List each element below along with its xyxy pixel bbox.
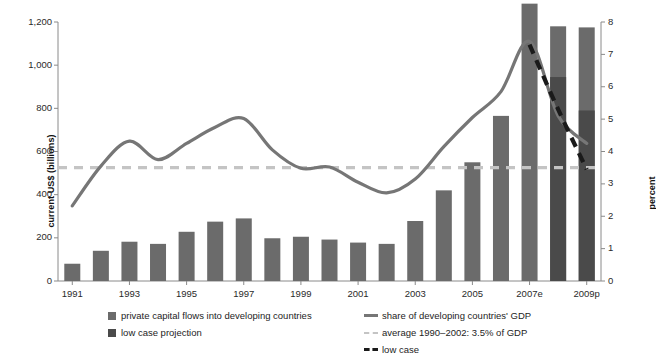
x-axis-tick-label: 1999 [279,288,323,299]
legend-item-low-case: low case [364,342,531,357]
legend-column-right: share of developing countries' GDP avera… [364,308,531,359]
y-axis-right-tick-label: 6 [608,80,613,91]
legend-label-average-gdp: average 1990–2002: 3.5% of GDP [382,327,527,338]
bar-total [264,238,280,281]
bar-total [179,232,195,281]
legend-swatch-private-capital-flows [108,312,116,320]
bar-total [236,218,252,281]
legend-label-gdp-share: share of developing countries' GDP [382,310,531,321]
legend-item-gdp-share: share of developing countries' GDP [364,308,531,323]
legend-swatch-low-case-projection [108,329,116,337]
bar-total [407,221,423,281]
bar-total [321,240,337,281]
y-axis-left-tick-label: 400 [6,188,52,199]
bar-low-case-projection [579,110,595,281]
legend-label-low-case-projection: low case projection [121,327,202,338]
x-axis-tick-label: 1993 [107,288,151,299]
y-axis-left-tick-label: 1,000 [6,59,52,70]
y-axis-right-tick-label: 2 [608,210,613,221]
y-axis-right-tick-label: 0 [608,275,613,286]
bar-total [493,116,509,281]
y-axis-left-tick-label: 800 [6,102,52,113]
x-axis-tick-label: 2009p [565,288,609,299]
legend-label-low-case: low case [382,344,419,355]
bar-total [64,264,80,281]
y-axis-right-tick-label: 5 [608,113,613,124]
x-axis-tick-label: 1997 [222,288,266,299]
y-axis-right-tick-label: 7 [608,48,613,59]
legend-column-left: private capital flows into developing co… [108,308,312,342]
legend-item-private-capital-flows: private capital flows into developing co… [108,308,312,323]
gdp-share-line [72,41,586,206]
y-axis-right-tick-label: 3 [608,177,613,188]
chart-legend: private capital flows into developing co… [0,306,656,361]
legend-item-low-case-projection: low case projection [108,325,312,340]
x-axis-tick-label: 2001 [336,288,380,299]
bar-total [350,243,366,281]
x-axis-tick-label: 2007e [508,288,552,299]
legend-item-average-gdp: average 1990–2002: 3.5% of GDP [364,325,531,340]
x-axis-tick-label: 1991 [50,288,94,299]
y-axis-left-tick-label: 200 [6,231,52,242]
gdp-share-curve [72,41,586,206]
x-axis-tick-label: 1995 [165,288,209,299]
y-axis-left-tick-label: 0 [6,275,52,286]
y-axis-right-tick-label: 1 [608,242,613,253]
x-axis-tick-label: 2003 [393,288,437,299]
y-axis-left-tick-label: 600 [6,145,52,156]
bars-layer [64,4,594,281]
legend-line-low-case [364,348,378,351]
bar-total [379,244,395,281]
bar-total [121,242,137,281]
legend-line-gdp-share [364,314,378,317]
bar-total [436,190,452,281]
bar-total [207,222,223,281]
legend-label-private-capital-flows: private capital flows into developing co… [121,310,312,321]
bar-total [150,244,166,281]
y-axis-right-tick-label: 8 [608,16,613,27]
y-axis-left-tick-label: 1,200 [6,16,52,27]
x-axis-tick-label: 2005 [450,288,494,299]
chart-figure: current US$ (billions) percent 020040060… [0,0,656,361]
bar-total [464,162,480,281]
y-axis-right-tick-label: 4 [608,145,613,156]
legend-line-average-gdp [364,332,378,334]
bar-total [93,251,109,281]
bar-total [293,237,309,281]
